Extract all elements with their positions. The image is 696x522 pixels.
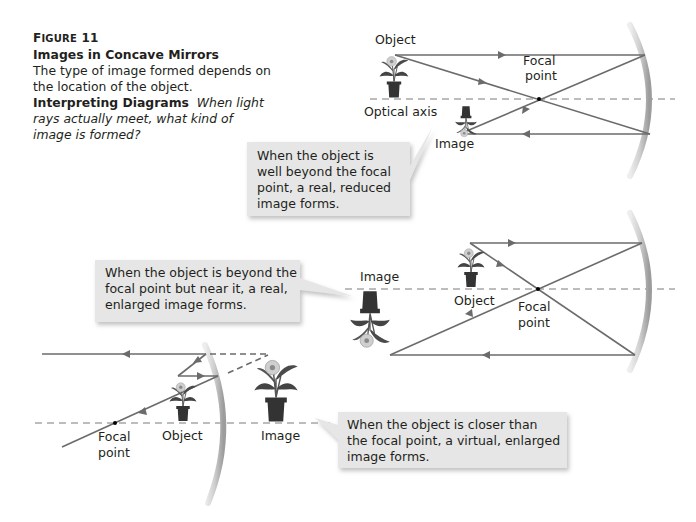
callout-inside-line: the focal point, a virtual, enlarged [347, 433, 560, 448]
panel-far-object: Object Focal point Optical axis Image Wh… [247, 25, 675, 216]
callout-inside-line: image forms. [347, 449, 430, 464]
focal-point-dot [537, 97, 541, 101]
image-plant-icon [350, 291, 390, 347]
label-focal: Focal [98, 429, 130, 444]
label-object: Object [375, 32, 416, 47]
object-plant-icon [458, 249, 485, 287]
concave-mirror-diagram: Object Focal point Optical axis Image Wh… [0, 0, 696, 522]
label-optical-axis: Optical axis [364, 104, 437, 119]
concave-mirror [630, 25, 649, 176]
callout-near-line: When the object is beyond the [105, 265, 297, 280]
object-plant-icon [380, 57, 409, 98]
label-point: point [525, 68, 557, 83]
label-object: Object [454, 293, 495, 308]
label-image: Image [360, 269, 399, 284]
callout-far-line: When the object is [257, 148, 374, 163]
callout-near-line: enlarged image forms. [105, 297, 247, 312]
callout-far: When the object is well beyond the focal… [247, 128, 432, 216]
callout-inside-line: When the object is closer than [347, 417, 538, 432]
concave-mirror [630, 213, 649, 370]
label-object: Object [162, 428, 203, 443]
concave-mirror [205, 345, 223, 503]
panel-near-object: Image Object Focal point When the object… [95, 213, 675, 370]
callout-far-line: image forms. [257, 196, 340, 211]
image-plant-icon [254, 360, 297, 421]
focal-point-dot [113, 421, 117, 425]
label-focal: Focal [523, 53, 555, 68]
label-focal: Focal [518, 299, 550, 314]
panel-inside-focal: Focal point Object Image When the object… [35, 345, 567, 503]
callout-near-line: focal point but near it, a real, [105, 281, 288, 296]
image-plant-icon [455, 106, 477, 137]
callout-far-line: well beyond the focal [257, 164, 391, 179]
callout-far-line: point, a real, reduced [257, 180, 391, 195]
label-point: point [98, 445, 130, 460]
light-rays [390, 243, 642, 355]
focal-point-dot [536, 287, 540, 291]
callout-inside: When the object is closer than the focal… [315, 412, 567, 468]
label-image: Image [435, 136, 474, 151]
label-point: point [518, 315, 550, 330]
ray-arrows [122, 350, 205, 415]
callout-near: When the object is beyond the focal poin… [95, 260, 352, 322]
label-image: Image [261, 428, 300, 443]
virtual-rays [210, 354, 268, 373]
